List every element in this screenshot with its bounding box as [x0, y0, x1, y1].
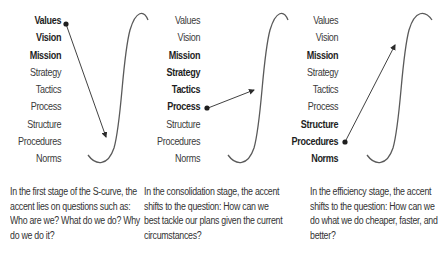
level-label-norms: Norms: [18, 150, 61, 167]
level-label-structure: Structure: [157, 116, 200, 133]
level-label-strategy: Strategy: [157, 64, 200, 81]
panel-efficiency-stage: Values Vision Mission Strategy Tactics P…: [298, 0, 448, 255]
level-label-values: Values: [157, 12, 200, 29]
stage-caption-consolidation: In the consolidation stage, the accent s…: [144, 185, 285, 243]
level-label-norms: Norms: [291, 150, 338, 167]
level-label-norms: Norms: [157, 150, 200, 167]
level-label-structure: Structure: [291, 116, 338, 133]
level-label-procedures: Procedures: [18, 133, 61, 150]
level-label-values: Values: [18, 12, 61, 29]
level-label-process: Process: [18, 98, 61, 115]
level-label-mission: Mission: [18, 47, 61, 64]
level-label-tactics: Tactics: [18, 81, 61, 98]
level-label-strategy: Strategy: [18, 64, 61, 81]
level-label-vision: Vision: [291, 29, 338, 46]
level-label-strategy: Strategy: [291, 64, 338, 81]
level-label-tactics: Tactics: [157, 81, 200, 98]
panel-first-stage: Values Vision Mission Strategy Tactics P…: [0, 0, 150, 255]
panel-consolidation-stage: Values Vision Mission Strategy Tactics P…: [150, 0, 300, 255]
level-label-vision: Vision: [18, 29, 61, 46]
level-label-vision: Vision: [157, 29, 200, 46]
level-label-values: Values: [291, 12, 338, 29]
level-label-procedures: Procedures: [157, 133, 200, 150]
level-label-process: Process: [157, 98, 200, 115]
level-label-process: Process: [291, 98, 338, 115]
level-labels: Values Vision Mission Strategy Tactics P…: [284, 12, 338, 168]
stage-caption-first: In the first stage of the S-curve, the a…: [10, 185, 140, 243]
level-labels: Values Vision Mission Strategy Tactics P…: [150, 12, 200, 168]
level-label-structure: Structure: [18, 116, 61, 133]
level-labels: Values Vision Mission Strategy Tactics P…: [11, 12, 61, 168]
level-label-tactics: Tactics: [291, 81, 338, 98]
level-label-mission: Mission: [291, 47, 338, 64]
stage-caption-efficiency: In the efficiency stage, the accent shif…: [310, 185, 440, 243]
level-label-mission: Mission: [157, 47, 200, 64]
level-label-procedures: Procedures: [291, 133, 338, 150]
